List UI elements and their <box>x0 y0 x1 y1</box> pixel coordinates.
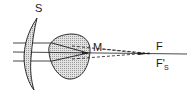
dashed-from-m-top <box>103 49 145 53</box>
lens-s <box>24 18 37 90</box>
eye-globe <box>49 34 90 79</box>
optics-diagram: S M F F' S <box>0 0 195 100</box>
label-f: F <box>156 40 163 52</box>
label-s: S <box>35 2 42 14</box>
label-m: M <box>93 41 102 53</box>
label-f-prime-subscript: S <box>164 64 169 71</box>
